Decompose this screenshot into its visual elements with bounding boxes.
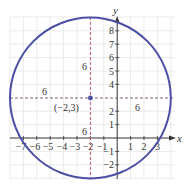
svg-text:−6: −6 [30,141,41,152]
radius-label-bottom: 6 [82,126,87,137]
svg-text:−2: −2 [83,141,94,152]
radius-label-top: 6 [82,61,87,72]
x-axis-arrow-icon [169,136,176,141]
center-point [88,96,93,101]
x-tick-labels: −7 −6 −5 −4 −3 −2 −1 1 2 3 [16,141,160,152]
svg-text:−2: −2 [103,159,114,170]
radius-label-right: 6 [135,102,140,113]
svg-text:−1: −1 [103,146,114,157]
center-label: (−2,3) [54,102,79,114]
svg-text:1: 1 [128,141,133,152]
svg-text:−5: −5 [43,141,54,152]
radius-label-left: 6 [42,86,47,97]
svg-text:2: 2 [109,106,114,117]
svg-text:1: 1 [109,119,114,130]
svg-text:−3: −3 [70,141,81,152]
y-axis-label: y [112,4,118,16]
svg-text:7: 7 [109,39,114,50]
svg-text:2: 2 [142,141,147,152]
svg-text:4: 4 [109,79,114,90]
svg-text:−4: −4 [57,141,68,152]
circle-graph: x y −7 −6 −5 −4 −3 −2 −1 1 2 3 8 [0,0,192,189]
svg-text:5: 5 [109,66,114,77]
svg-text:8: 8 [109,25,114,36]
x-axis-label: x [176,132,182,144]
svg-text:6: 6 [109,52,114,63]
